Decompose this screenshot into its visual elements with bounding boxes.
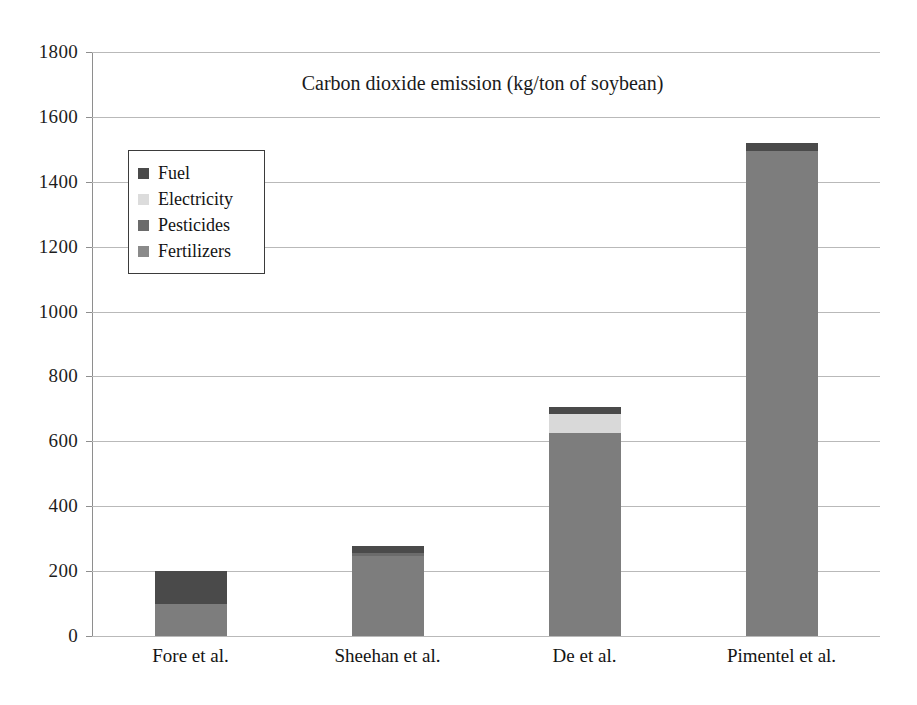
bar-segment-fuel[interactable] [549,407,621,413]
legend-swatch-icon [138,194,149,205]
y-axis-tick-mark [86,571,92,572]
x-axis-tick-label: Pimentel et al. [672,645,892,666]
bar-group[interactable] [155,52,227,636]
y-axis-tick-mark [86,636,92,637]
bar-segment-electricity[interactable] [549,414,621,433]
bar-segment-fuel[interactable] [352,546,424,552]
y-axis-tick-mark [86,441,92,442]
bar-group[interactable] [549,52,621,636]
y-axis-tick-label: 1400 [8,172,78,191]
y-axis-tick-mark [86,182,92,183]
legend-label: Pesticides [158,215,230,235]
bar-group[interactable] [746,52,818,636]
y-axis-tick-mark [86,52,92,53]
y-axis-tick-mark [86,376,92,377]
y-axis-tick-label: 1000 [8,302,78,321]
bar-segment-fertilizers[interactable] [352,556,424,636]
legend-swatch-icon [138,168,149,179]
legend-swatch-icon [138,246,149,257]
legend-item[interactable]: Pesticides [138,212,254,238]
chart-legend: FuelElectricityPesticidesFertilizers [128,150,265,274]
y-axis-tick-label: 1600 [8,107,78,126]
x-axis-tick-label: De et al. [475,645,695,666]
legend-label: Fuel [158,163,190,183]
y-axis-tick-label: 600 [8,431,78,450]
y-axis-tick-mark [86,506,92,507]
y-axis-tick-mark [86,247,92,248]
y-axis-tick-mark [86,117,92,118]
x-axis-tick-label: Fore et al. [81,645,301,666]
y-axis-tick-label: 1200 [8,237,78,256]
legend-item[interactable]: Fertilizers [138,238,254,264]
x-axis-tick-label: Sheehan et al. [278,645,498,666]
plot-area [92,52,880,636]
y-axis-tick-label: 0 [8,626,78,645]
legend-item[interactable]: Fuel [138,160,254,186]
legend-label: Electricity [158,189,233,209]
y-axis-tick-mark [86,312,92,313]
gridline [92,636,880,637]
chart-figure: Carbon dioxide emission (kg/ton of soybe… [0,0,917,705]
y-axis-tick-label: 200 [8,561,78,580]
bar-segment-fertilizers[interactable] [746,151,818,636]
bar-segment-pesticides[interactable] [352,553,424,556]
y-axis-tick-labels: 180016001400120010008006004002000 [0,0,78,705]
bar-segment-fertilizers[interactable] [155,604,227,636]
y-axis-tick-label: 400 [8,496,78,515]
bar-group[interactable] [352,52,424,636]
legend-label: Fertilizers [158,241,231,261]
legend-swatch-icon [138,220,149,231]
bar-segment-fertilizers[interactable] [549,433,621,636]
y-axis-tick-label: 800 [8,366,78,385]
y-axis-tick-label: 1800 [8,42,78,61]
bar-segment-fuel[interactable] [746,143,818,151]
bar-segment-fuel[interactable] [155,571,227,603]
legend-item[interactable]: Electricity [138,186,254,212]
